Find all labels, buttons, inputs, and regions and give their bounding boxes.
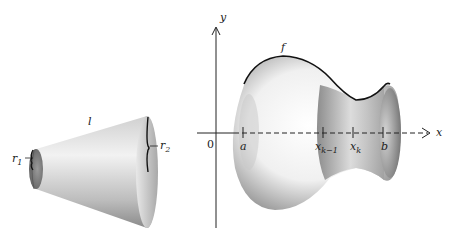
figure-canvas [0,0,449,245]
xk-subscript: k [356,146,361,155]
x-axis-label: x [436,127,442,138]
r2-subscript: 2 [165,145,170,154]
tick-label-xk-1: xk−1 [315,141,338,155]
tick-label-a: a [240,141,247,152]
a-symbol: a [240,140,247,153]
origin-label: 0 [207,139,214,150]
r1-label: r1 [12,153,22,167]
xk-1-subscript: k−1 [321,146,338,155]
r1-subscript: 1 [17,158,22,167]
curve-f-label: f [281,42,285,53]
tick-label-xk: xk [350,141,361,155]
frustum [25,116,158,228]
r2-label: r2 [160,140,170,154]
tick-label-b: b [381,141,388,152]
slant-height-label: l [88,116,92,127]
y-axis-label: y [220,12,226,23]
b-symbol: b [381,140,388,153]
